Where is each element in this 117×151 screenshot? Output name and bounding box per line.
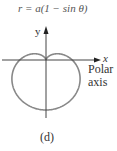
figure-caption: (d) (40, 130, 54, 145)
y-axis-label: y (35, 25, 41, 37)
y-axis-arrow-icon (44, 26, 49, 34)
polar-axis-label-line2: axis (88, 75, 107, 90)
